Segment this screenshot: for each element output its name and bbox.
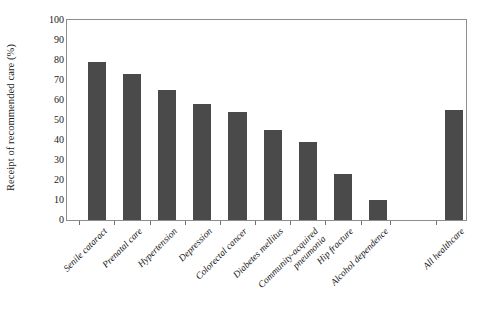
- bar: [158, 90, 176, 220]
- x-tick-mark: [220, 221, 221, 225]
- x-tick-label-line: Senile cataract: [61, 226, 109, 274]
- x-tick-mark: [390, 221, 391, 225]
- y-axis-title-text: Receipt of recommended care (%): [6, 44, 17, 191]
- y-tick-label: 100: [38, 15, 64, 25]
- x-tick-mark: [150, 221, 151, 225]
- y-tick-label: 0: [38, 215, 64, 225]
- y-tick-label: 70: [38, 75, 64, 85]
- bar: [264, 130, 282, 220]
- y-axis-tick-labels: 0102030405060708090100: [34, 19, 64, 221]
- x-tick-mark: [185, 221, 186, 225]
- bar: [228, 112, 246, 220]
- y-tick-label: 10: [38, 195, 64, 205]
- x-tick-mark: [79, 221, 80, 225]
- bar: [369, 200, 387, 220]
- x-axis-tick-labels: Senile cataractPrenatal careHypertension…: [0, 226, 481, 321]
- bar: [299, 142, 317, 220]
- x-tick-mark: [361, 221, 362, 225]
- x-tick-label: All healthcare: [421, 226, 467, 272]
- bar: [334, 174, 352, 220]
- y-tick-label: 30: [38, 155, 64, 165]
- x-tick-mark: [114, 221, 115, 225]
- y-tick-label: 40: [38, 135, 64, 145]
- y-tick-label: 80: [38, 55, 64, 65]
- bar: [123, 74, 141, 220]
- x-tick-mark: [436, 221, 437, 225]
- y-axis-title: Receipt of recommended care (%): [0, 0, 22, 235]
- x-tick-mark: [325, 221, 326, 225]
- x-tick-label-line: All healthcare: [421, 226, 466, 271]
- bar-chart: Receipt of recommended care (%) 01020304…: [0, 0, 481, 321]
- x-tick-label: Senile cataract: [61, 226, 109, 274]
- bar: [193, 104, 211, 220]
- bars-layer: [67, 20, 466, 220]
- y-tick-label: 90: [38, 35, 64, 45]
- x-tick-mark: [255, 221, 256, 225]
- y-tick-label: 50: [38, 115, 64, 125]
- y-tick-label: 20: [38, 175, 64, 185]
- bar: [445, 110, 463, 220]
- x-tick-mark: [290, 221, 291, 225]
- bar: [88, 62, 106, 220]
- y-tick-label: 60: [38, 95, 64, 105]
